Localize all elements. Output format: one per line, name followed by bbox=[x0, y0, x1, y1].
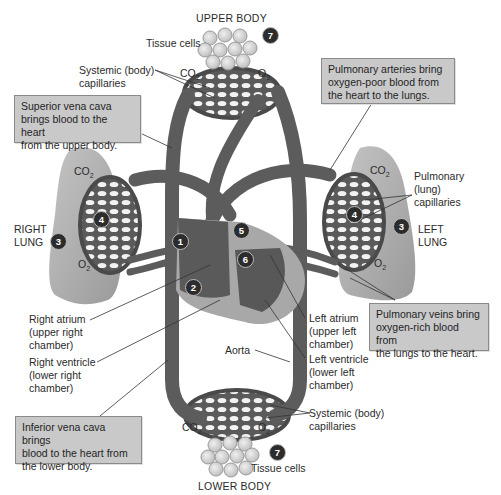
co2-text: CO bbox=[182, 421, 198, 433]
badge-6-left-ventricle: 6 bbox=[237, 251, 254, 268]
callout-line: oxygen-poor blood from bbox=[328, 76, 448, 89]
systemic-capillaries-top-line1: Systemic (body) bbox=[79, 64, 154, 77]
badge-3-left-lung: 3 bbox=[393, 218, 410, 235]
systemic-capillaries-top-label: Systemic (body) capillaries bbox=[79, 64, 154, 90]
co2-text: CO bbox=[180, 67, 196, 79]
right-ventricle-line3: chamber) bbox=[29, 382, 96, 395]
o2-text: O bbox=[374, 257, 382, 269]
tissue-cells-bottom-label: Tissue cells bbox=[251, 462, 305, 475]
systemic-capillaries-bottom-line2: capillaries bbox=[309, 420, 384, 433]
callout-line: Pulmonary veins bring bbox=[376, 308, 482, 321]
callout-line: blood to the heart from bbox=[22, 447, 135, 460]
tissue-cells-top bbox=[198, 28, 257, 70]
lower-body-label: LOWER BODY bbox=[198, 480, 271, 493]
right-atrium-line3: chamber) bbox=[29, 339, 86, 352]
o2-sub: 2 bbox=[382, 264, 386, 271]
badge-4-left-lung-capillaries: 4 bbox=[346, 206, 363, 223]
co2-sub: 2 bbox=[386, 171, 390, 178]
o2-sub: 2 bbox=[266, 428, 270, 435]
right-atrium-label: Right atrium (upper right chamber) bbox=[29, 313, 86, 352]
o2-text: O bbox=[78, 258, 86, 270]
right-ventricle-line1: Right ventricle bbox=[29, 356, 96, 369]
pulmonary-capillaries-line1: Pulmonary bbox=[414, 170, 464, 183]
left-lung-label-line2: LUNG bbox=[418, 236, 447, 249]
co2-bottom-label: CO2 bbox=[182, 421, 202, 435]
systemic-capillaries-bottom-line1: Systemic (body) bbox=[309, 407, 384, 420]
left-atrium-line3: chamber) bbox=[309, 338, 359, 351]
callout-line: oxygen-rich blood from bbox=[376, 321, 482, 347]
left-lung-label-line1: LEFT bbox=[418, 223, 447, 236]
badge-2-right-ventricle: 2 bbox=[185, 279, 202, 296]
left-atrium-label: Left atrium (upper left chamber) bbox=[309, 312, 359, 351]
callout-line: the lungs to the heart. bbox=[376, 347, 482, 360]
callout-line: Pulmonary arteries bring bbox=[328, 63, 448, 76]
co2-top-label: CO2 bbox=[180, 67, 200, 81]
co2-text: CO bbox=[74, 165, 90, 177]
badge-7-lower-tissue: 7 bbox=[269, 444, 286, 461]
right-lung-label-line2: LUNG bbox=[14, 236, 47, 249]
badge-5-left-atrium: 5 bbox=[233, 222, 250, 239]
right-lung-label-line1: RIGHT bbox=[14, 223, 47, 236]
o2-text: O bbox=[258, 67, 266, 79]
o2-top-label: O2 bbox=[258, 67, 270, 81]
right-ventricle-label: Right ventricle (lower right chamber) bbox=[29, 356, 96, 395]
right-atrium-line2: (upper right bbox=[29, 326, 86, 339]
co2-right-lung-label: CO2 bbox=[74, 165, 94, 179]
o2-sub: 2 bbox=[86, 265, 90, 272]
left-ventricle-label: Left ventricle (lower left chamber) bbox=[309, 353, 369, 392]
right-ventricle-line2: (lower right bbox=[29, 369, 96, 382]
tissue-cells-top-label: Tissue cells bbox=[146, 37, 200, 50]
callout-line: the heart to the lungs. bbox=[328, 89, 448, 102]
o2-text: O bbox=[258, 421, 266, 433]
o2-left-lung-label: O2 bbox=[374, 257, 386, 271]
pulmonary-capillaries-line2: (lung) bbox=[414, 183, 464, 196]
pulmonary-capillaries-line3: capillaries bbox=[414, 196, 464, 209]
right-lung-label: RIGHT LUNG bbox=[14, 223, 47, 249]
right-atrium-line1: Right atrium bbox=[29, 313, 86, 326]
left-ventricle-line1: Left ventricle bbox=[309, 353, 369, 366]
systemic-capillaries-top-line2: capillaries bbox=[79, 77, 154, 90]
callout-line: the lower body. bbox=[22, 460, 135, 473]
callout-line: Inferior vena cava brings bbox=[22, 421, 135, 447]
callout-line: Superior vena cava bbox=[21, 100, 134, 113]
o2-bottom-label: O2 bbox=[258, 421, 270, 435]
co2-sub: 2 bbox=[198, 428, 202, 435]
o2-right-lung-label: O2 bbox=[78, 258, 90, 272]
co2-text: CO bbox=[370, 164, 386, 176]
left-lung-label: LEFT LUNG bbox=[418, 223, 447, 249]
co2-sub: 2 bbox=[196, 74, 200, 81]
badge-1-right-atrium: 1 bbox=[172, 233, 189, 250]
left-ventricle-line2: (lower left bbox=[309, 366, 369, 379]
o2-sub: 2 bbox=[266, 74, 270, 81]
left-atrium-line2: (upper left bbox=[309, 325, 359, 338]
co2-sub: 2 bbox=[90, 172, 94, 179]
badge-7-upper-tissue: 7 bbox=[262, 27, 279, 44]
badge-3-right-lung: 3 bbox=[50, 233, 67, 250]
aorta-label: Aorta bbox=[225, 344, 250, 357]
systemic-capillaries-bottom-label: Systemic (body) capillaries bbox=[309, 407, 384, 433]
callout-superior-vena-cava: Superior vena cava brings blood to the h… bbox=[14, 95, 141, 143]
left-ventricle-line3: chamber) bbox=[309, 379, 369, 392]
upper-body-label: UPPER BODY bbox=[196, 12, 267, 25]
callout-pulmonary-arteries: Pulmonary arteries bring oxygen-poor blo… bbox=[321, 58, 455, 104]
callout-line: brings blood to the heart bbox=[21, 113, 134, 139]
callout-inferior-vena-cava: Inferior vena cava brings blood to the h… bbox=[15, 416, 142, 464]
callout-line: from the upper body. bbox=[21, 139, 134, 152]
pulmonary-capillaries-label: Pulmonary (lung) capillaries bbox=[414, 170, 464, 209]
callout-pulmonary-veins: Pulmonary veins bring oxygen-rich blood … bbox=[369, 303, 489, 351]
badge-4-right-lung-capillaries: 4 bbox=[93, 211, 110, 228]
co2-left-lung-label: CO2 bbox=[370, 164, 390, 178]
left-atrium-line1: Left atrium bbox=[309, 312, 359, 325]
